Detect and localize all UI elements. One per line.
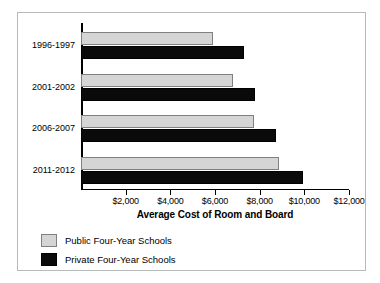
bar-private-2001-2002 xyxy=(81,88,255,101)
chart-figure: $2,000$4,000$6,000$8,000$10,000$12,000 1… xyxy=(17,12,366,271)
bar-private-1996-1997 xyxy=(81,46,244,59)
x-tick-label: $2,000 xyxy=(112,196,138,206)
bar-private-2011-2012 xyxy=(81,171,303,184)
x-axis-title: Average Cost of Room and Board xyxy=(81,209,349,220)
x-tick-mark xyxy=(126,190,127,195)
x-tick-mark xyxy=(304,190,305,195)
legend-swatch-private xyxy=(41,253,57,266)
bar-public-2006-2007 xyxy=(81,115,254,128)
bar-group: 2011-2012 xyxy=(81,148,349,190)
legend-swatch-public xyxy=(41,234,57,247)
category-label: 2001-2002 xyxy=(32,83,75,92)
x-tick-label: $4,000 xyxy=(157,196,183,206)
bar-public-2011-2012 xyxy=(81,157,279,170)
bar-public-1996-1997 xyxy=(81,32,213,45)
bar-group: 1996-1997 xyxy=(81,23,349,65)
x-tick-mark xyxy=(170,190,171,195)
legend-label: Public Four-Year Schools xyxy=(65,235,172,246)
x-tick-label: $8,000 xyxy=(246,196,272,206)
x-tick-mark xyxy=(349,190,350,195)
plot-area: $2,000$4,000$6,000$8,000$10,000$12,000 1… xyxy=(81,23,349,189)
x-tick-mark xyxy=(260,190,261,195)
legend-item: Private Four-Year Schools xyxy=(41,250,176,269)
bar-private-2006-2007 xyxy=(81,129,276,142)
chart-legend: Public Four-Year SchoolsPrivate Four-Yea… xyxy=(41,231,176,269)
bar-public-2001-2002 xyxy=(81,74,233,87)
x-tick-mark xyxy=(215,190,216,195)
category-label: 1996-1997 xyxy=(32,41,75,50)
category-label: 2011-2012 xyxy=(33,166,75,175)
x-tick-label: $10,000 xyxy=(289,196,320,206)
bar-group: 2006-2007 xyxy=(81,106,349,148)
x-tick-label: $12,000 xyxy=(333,196,364,206)
bar-group: 2001-2002 xyxy=(81,65,349,107)
x-tick-label: $6,000 xyxy=(202,196,228,206)
legend-item: Public Four-Year Schools xyxy=(41,231,176,250)
legend-label: Private Four-Year Schools xyxy=(65,254,176,265)
category-label: 2006-2007 xyxy=(32,124,75,133)
